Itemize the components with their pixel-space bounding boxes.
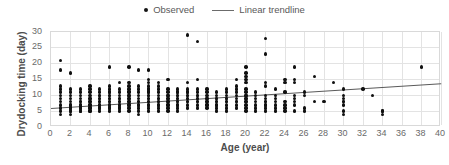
x-axis-tick-label: 38 (411, 128, 431, 138)
data-point (108, 109, 111, 112)
data-point (264, 84, 267, 87)
data-point (274, 87, 277, 90)
data-point (371, 94, 374, 97)
x-axis-tick-label: 24 (274, 128, 294, 138)
data-point (303, 94, 306, 97)
data-point (264, 109, 267, 112)
data-point (98, 109, 101, 112)
plot-area (50, 31, 440, 126)
x-axis-tick-label: 16 (196, 128, 216, 138)
data-point (293, 81, 296, 84)
x-axis-tick-label: 32 (352, 128, 372, 138)
legend-entry-trendline: Linear trendline (212, 5, 305, 15)
gridline-horizontal (51, 63, 439, 64)
data-point (196, 106, 199, 109)
data-point (118, 81, 121, 84)
data-point (147, 109, 150, 112)
data-point (313, 75, 316, 78)
x-axis-tick-label: 26 (294, 128, 314, 138)
x-axis-tick-label: 12 (157, 128, 177, 138)
data-point (147, 68, 150, 71)
data-point (69, 113, 72, 116)
data-point (381, 113, 384, 116)
data-point (166, 109, 169, 112)
data-point (215, 109, 218, 112)
data-point (235, 106, 238, 109)
x-axis-tick-label: 40 (430, 128, 449, 138)
data-point (186, 33, 189, 36)
x-axis-title: Age (year) (50, 142, 440, 154)
data-point (69, 71, 72, 74)
data-point (264, 52, 267, 55)
data-point (59, 68, 62, 71)
data-point (322, 100, 325, 103)
gridline-vertical (441, 32, 442, 125)
data-point (127, 65, 130, 68)
data-point (205, 106, 208, 109)
x-axis-tick-label: 10 (138, 128, 158, 138)
x-axis-tick-label: 20 (235, 128, 255, 138)
chart-legend: Observed Linear trendline (0, 2, 449, 18)
data-point (244, 65, 247, 68)
data-point (293, 65, 296, 68)
data-point (293, 103, 296, 106)
data-point (157, 109, 160, 112)
observed-marker-icon (144, 8, 148, 12)
data-point (137, 113, 140, 116)
data-point (127, 109, 130, 112)
y-axis-title-holder: Drydocking time (day) (2, 28, 16, 128)
data-point (274, 109, 277, 112)
data-point (59, 59, 62, 62)
data-point (283, 90, 286, 93)
data-point (283, 81, 286, 84)
data-point (118, 109, 121, 112)
x-axis-tick-label: 30 (333, 128, 353, 138)
data-point (342, 87, 345, 90)
data-point (332, 81, 335, 84)
data-point (108, 65, 111, 68)
x-axis-tick-label: 6 (99, 128, 119, 138)
data-point (313, 100, 316, 103)
x-axis-tick-label: 18 (216, 128, 236, 138)
data-point (244, 81, 247, 84)
chart-root: Observed Linear trendline 051015202530 D… (0, 0, 449, 165)
legend-label-observed: Observed (153, 5, 194, 15)
x-axis-tick-label: 22 (255, 128, 275, 138)
data-point (186, 106, 189, 109)
data-point (293, 109, 296, 112)
data-point (137, 68, 140, 71)
data-point (244, 109, 247, 112)
data-point (79, 109, 82, 112)
data-point (166, 78, 169, 81)
data-point (59, 113, 62, 116)
gridline-horizontal (51, 47, 439, 48)
x-axis-tick-label: 8 (118, 128, 138, 138)
data-point (342, 103, 345, 106)
data-point (283, 109, 286, 112)
data-point (420, 65, 423, 68)
x-axis-tick-label: 36 (391, 128, 411, 138)
legend-entry-observed: Observed (144, 5, 194, 15)
data-point (186, 81, 189, 84)
data-point (196, 78, 199, 81)
x-axis-tick-label: 28 (313, 128, 333, 138)
x-axis-tick-labels: 0246810121416182022242628303234363840 (0, 128, 449, 140)
x-axis-tick-label: 34 (372, 128, 392, 138)
data-point (88, 109, 91, 112)
legend-label-trendline: Linear trendline (239, 5, 305, 15)
data-point (342, 113, 345, 116)
trendline-marker-icon (212, 10, 234, 11)
data-point (361, 87, 364, 90)
x-axis-tick-label: 14 (177, 128, 197, 138)
data-point (225, 109, 228, 112)
data-point (176, 109, 179, 112)
data-point (196, 40, 199, 43)
data-point (264, 37, 267, 40)
data-point (303, 109, 306, 112)
data-point (235, 78, 238, 81)
x-axis-tick-label: 2 (60, 128, 80, 138)
data-point (254, 109, 257, 112)
x-axis-tick-label: 0 (40, 128, 60, 138)
x-axis-tick-label: 4 (79, 128, 99, 138)
